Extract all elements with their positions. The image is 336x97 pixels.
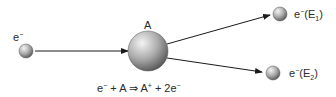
outgoing-electron-1-label: e−(E1) bbox=[294, 8, 323, 22]
ionization-diagram: e− A e−(E1) e−(E2) e− + A ⇒ A+ + 2e− bbox=[0, 0, 336, 97]
outgoing-arrow-1 bbox=[167, 15, 270, 44]
outgoing-arrow-2 bbox=[167, 58, 262, 72]
incoming-electron bbox=[19, 44, 33, 58]
outgoing-electron-1 bbox=[273, 7, 287, 21]
reaction-equation: e− + A ⇒ A+ + 2e− bbox=[97, 82, 181, 94]
incoming-electron-label: e− bbox=[13, 31, 23, 43]
atom-sphere bbox=[128, 31, 168, 71]
outgoing-electron-2 bbox=[266, 66, 280, 80]
atom-label: A bbox=[144, 19, 152, 31]
outgoing-electron-2-label: e−(E2) bbox=[289, 67, 318, 81]
